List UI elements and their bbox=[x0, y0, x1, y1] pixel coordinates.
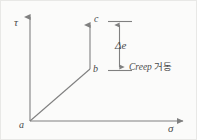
creep-diagram-figure: τ σ a b c Δe Creep 거동 bbox=[0, 0, 197, 140]
loading-path-a-to-b bbox=[30, 69, 90, 121]
creep-behavior-note: Creep 거동 bbox=[129, 62, 172, 73]
point-label-c: c bbox=[94, 14, 98, 24]
creep-note-emphasis: Creep bbox=[129, 62, 152, 72]
tau-axis-label: τ bbox=[14, 17, 18, 28]
point-label-a: a bbox=[19, 120, 24, 130]
point-label-b: b bbox=[93, 64, 98, 74]
sigma-axis-label: σ bbox=[168, 123, 173, 134]
delta-e-label: Δe bbox=[115, 40, 126, 51]
creep-note-korean: 거동 bbox=[154, 61, 172, 72]
